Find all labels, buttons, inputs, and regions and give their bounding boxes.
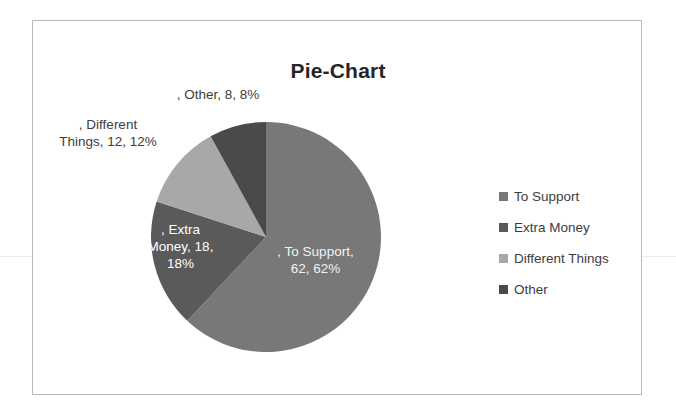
pie-label-different-things: , Different Things, 12, 12% (38, 116, 178, 150)
legend-swatch-icon (499, 192, 508, 201)
legend-item-to-support[interactable]: To Support (499, 181, 649, 212)
pie-label-to-support: , To Support, 62, 62% (248, 243, 383, 277)
legend-label: Extra Money (514, 220, 590, 235)
legend-label: To Support (514, 189, 579, 204)
chart-frame: Pie-Chart , To Support, 62, 62% , Extra … (32, 20, 642, 395)
legend-swatch-icon (499, 223, 508, 232)
pie-label-extra-money: , Extra Money, 18, 18% (128, 221, 233, 272)
legend-item-different-things[interactable]: Different Things (499, 243, 649, 274)
legend-label: Different Things (514, 251, 609, 266)
pie-label-other: , Other, 8, 8% (138, 86, 298, 103)
legend-swatch-icon (499, 254, 508, 263)
legend-item-other[interactable]: Other (499, 274, 649, 305)
legend-label: Other (514, 282, 548, 297)
legend-item-extra-money[interactable]: Extra Money (499, 212, 649, 243)
chart-legend: To Support Extra Money Different Things … (499, 181, 649, 305)
legend-swatch-icon (499, 285, 508, 294)
